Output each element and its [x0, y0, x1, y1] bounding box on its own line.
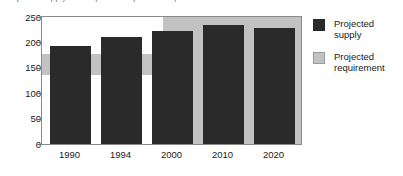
x-tick-label-2010: 2010 — [202, 150, 243, 160]
legend-label-projected-supply-line1: Projected — [334, 18, 403, 29]
y-tick-label-200: 200 — [7, 38, 41, 48]
legend: Projected supply Projected requirement — [313, 18, 403, 84]
x-tick-label-2020: 2020 — [253, 150, 294, 160]
x-tick-label-1994: 1994 — [100, 150, 141, 160]
y-axis: 250 200 150 100 50 0 — [0, 0, 41, 176]
x-tick-label-1990: 1990 — [49, 150, 90, 160]
y-tick-label-50: 50 — [7, 114, 41, 124]
x-tick-label-2000: 2000 — [151, 150, 192, 160]
legend-item-projected-supply: Projected supply — [313, 18, 403, 40]
legend-item-projected-requirement: Projected requirement — [313, 51, 403, 73]
bar-2000 — [152, 31, 193, 144]
bar-chart: Projected supply and requirement (thousa… — [0, 0, 403, 176]
legend-label-projected-supply-line2: supply — [334, 29, 403, 40]
legend-label-projected-requirement-line2: requirement — [334, 62, 403, 73]
plot-area — [41, 16, 302, 145]
y-tick-label-100: 100 — [7, 89, 41, 99]
bar-1990 — [50, 46, 91, 144]
bar-2020 — [254, 28, 295, 144]
y-tick-label-250: 250 — [7, 13, 41, 23]
legend-swatch-projected-requirement — [313, 52, 325, 64]
legend-swatch-projected-supply — [313, 19, 325, 31]
bar-1994 — [101, 37, 142, 144]
bar-2010 — [203, 25, 244, 144]
y-tick-label-150: 150 — [7, 63, 41, 73]
y-tick-label-0: 0 — [7, 140, 41, 150]
legend-label-projected-requirement-line1: Projected — [334, 51, 403, 62]
